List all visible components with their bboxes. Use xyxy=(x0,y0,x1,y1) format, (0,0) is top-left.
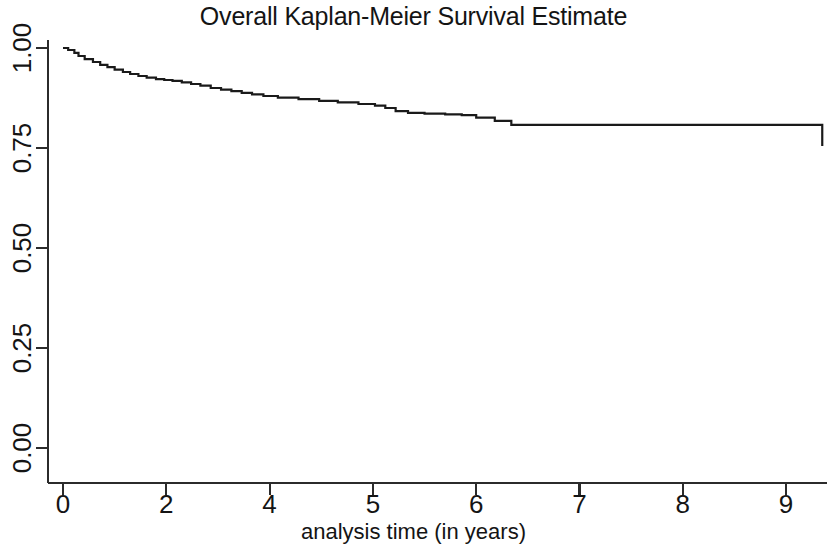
y-tick-label: 0.75 xyxy=(7,105,37,191)
plot-area xyxy=(0,0,827,553)
y-tick-label: 1.00 xyxy=(7,5,37,91)
x-tick-label: 6 xyxy=(446,489,506,519)
y-tick-label: 0.00 xyxy=(7,405,37,491)
x-axis-title: analysis time (in years) xyxy=(0,519,827,545)
y-tick-marks xyxy=(36,48,48,448)
x-tick-label: 0 xyxy=(33,489,93,519)
x-tick-label: 2 xyxy=(136,489,196,519)
y-tick-label: 0.50 xyxy=(7,205,37,291)
x-tick-label: 8 xyxy=(653,489,713,519)
axis-spines xyxy=(48,40,827,483)
y-tick-label: 0.25 xyxy=(7,305,37,391)
x-tick-label: 4 xyxy=(240,489,300,519)
x-tick-label: 9 xyxy=(756,489,816,519)
x-tick-label: 7 xyxy=(550,489,610,519)
x-tick-label: 5 xyxy=(343,489,403,519)
kaplan-meier-figure: Overall Kaplan-Meier Survival Estimate 0… xyxy=(0,0,827,553)
survival-curve-line xyxy=(63,48,822,146)
